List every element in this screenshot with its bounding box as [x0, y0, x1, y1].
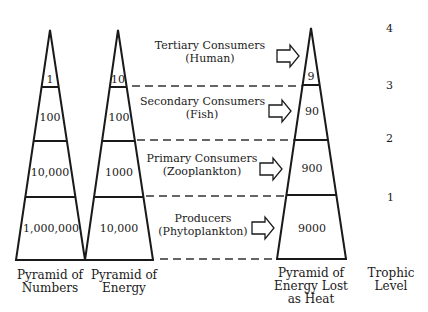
pyramid-of-numbers-title: Pyramid of Numbers — [12, 269, 88, 295]
trophic-level-title: Trophic Level — [366, 267, 416, 293]
energy-cell-level3: 100 — [99, 111, 139, 124]
consumer-label-secondary: Secondary Consumers (Fish) — [140, 95, 264, 121]
consumer-label-tertiary: Tertiary Consumers (Human) — [150, 39, 270, 65]
consumer-organism: (Zooplankton) — [146, 165, 258, 178]
energy-cell-level1: 10,000 — [86, 222, 152, 235]
arrow-right-icon — [252, 217, 274, 239]
arrow-right-icon — [277, 45, 299, 67]
arrow-right-icon — [269, 100, 291, 122]
heat-cell-level3: 90 — [292, 105, 332, 118]
heat-cell-level1: 9000 — [279, 222, 345, 235]
consumer-name: Secondary Consumers — [140, 95, 264, 108]
consumer-organism: (Human) — [150, 52, 270, 65]
consumer-organism: (Fish) — [140, 108, 264, 121]
consumer-label-producers: Producers (Phytoplankton) — [155, 212, 251, 238]
trophic-level-2: 2 — [386, 132, 393, 145]
numbers-cell-level1: 1,000,000 — [18, 222, 84, 235]
consumer-label-primary: Primary Consumers (Zooplankton) — [146, 152, 258, 178]
numbers-cell-level4: 1 — [40, 73, 60, 86]
consumer-name: Producers — [155, 212, 251, 225]
consumer-organism: (Phytoplankton) — [155, 225, 251, 238]
arrow-icons — [252, 45, 299, 239]
trophic-level-4: 4 — [386, 22, 393, 35]
consumer-name: Primary Consumers — [146, 152, 258, 165]
pyramid-of-energy-title: Pyramid of Energy — [86, 269, 162, 295]
pyramid-of-heat-title: Pyramid of Energy Lost as Heat — [270, 267, 352, 306]
arrow-right-icon — [260, 158, 282, 180]
trophic-level-3: 3 — [386, 79, 393, 92]
trophic-level-1: 1 — [387, 191, 394, 204]
numbers-cell-level3: 100 — [30, 111, 70, 124]
energy-cell-level2: 1000 — [94, 166, 144, 179]
heat-cell-level4: 9 — [301, 70, 321, 83]
heat-cell-level2: 900 — [287, 162, 337, 175]
energy-cell-level4: 10 — [108, 73, 128, 86]
numbers-cell-level2: 10,000 — [25, 166, 75, 179]
consumer-name: Tertiary Consumers — [150, 39, 270, 52]
